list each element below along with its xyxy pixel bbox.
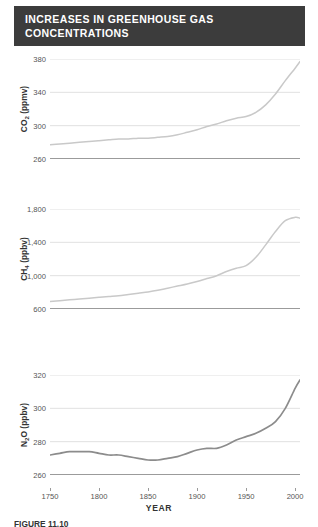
chart-panel-co2: CO2 (ppmv) 380340300260 xyxy=(0,52,318,172)
y-tick-label: 320 xyxy=(2,371,46,380)
x-axis: 175018001850190019502000 xyxy=(50,488,300,504)
x-tick-label: 2000 xyxy=(287,492,304,501)
chart-title-line-2: CONCENTRATIONS xyxy=(25,26,305,40)
y-tick-label: 1,400 xyxy=(2,238,46,247)
x-axis-title: YEAR xyxy=(0,503,318,513)
plot-area-co2 xyxy=(50,59,300,159)
plot-svg-co2 xyxy=(50,59,300,159)
y-tick-label: 260 xyxy=(2,155,46,164)
chart-title-banner: INCREASES IN GREENHOUSE GAS CONCENTRATIO… xyxy=(14,6,305,46)
x-tick-mark xyxy=(246,488,247,491)
figure-caption: FIGURE 11.10 xyxy=(14,519,304,527)
data-line-n2o xyxy=(50,380,300,460)
x-tick-mark xyxy=(148,488,149,491)
x-tick-mark xyxy=(197,488,198,491)
x-tick-mark xyxy=(99,488,100,491)
x-tick-label: 1800 xyxy=(91,492,108,501)
y-tick-label: 340 xyxy=(2,88,46,97)
plot-area-n2o xyxy=(50,375,300,475)
y-ticks-ch4: 1,8001,4001,000600 xyxy=(0,209,46,309)
plot-area-ch4 xyxy=(50,209,300,309)
y-tick-label: 600 xyxy=(2,305,46,314)
y-tick-label: 260 xyxy=(2,471,46,480)
x-tick-label: 1750 xyxy=(42,492,59,501)
plot-svg-n2o xyxy=(50,375,300,475)
y-tick-label: 380 xyxy=(2,55,46,64)
y-ticks-co2: 380340300260 xyxy=(0,59,46,159)
x-tick-label: 1950 xyxy=(238,492,255,501)
y-tick-label: 300 xyxy=(2,121,46,130)
chart-title-line-1: INCREASES IN GREENHOUSE GAS xyxy=(25,12,305,26)
x-tick-label: 1850 xyxy=(140,492,157,501)
x-tick-mark xyxy=(295,488,296,491)
x-tick-mark xyxy=(50,488,51,491)
data-line-ch4 xyxy=(50,217,300,301)
data-line-co2 xyxy=(50,62,300,145)
chart-panel-n2o: N2O (ppbv) 320300280260 xyxy=(0,368,318,488)
y-tick-label: 280 xyxy=(2,437,46,446)
y-tick-label: 1,000 xyxy=(2,271,46,280)
y-tick-label: 300 xyxy=(2,404,46,413)
x-tick-label: 1900 xyxy=(189,492,206,501)
y-ticks-n2o: 320300280260 xyxy=(0,375,46,475)
y-tick-label: 1,800 xyxy=(2,205,46,214)
chart-panel-ch4: CH4 (ppbv) 1,8001,4001,000600 xyxy=(0,202,318,322)
plot-svg-ch4 xyxy=(50,209,300,309)
